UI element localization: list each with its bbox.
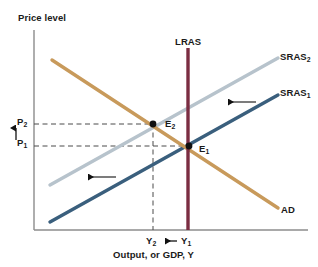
price-level-p2-label: P2 [17, 117, 27, 127]
sras1-label-text: SRAS [280, 87, 307, 98]
ad-curve [52, 60, 278, 208]
curve-group [50, 48, 278, 230]
x-axis-title: Output, or GDP, Y [113, 250, 194, 260]
ad-curve-label: AD [281, 205, 295, 215]
as-ad-chart [0, 0, 318, 267]
equilibrium-e2-label: E2 [165, 119, 175, 129]
y1-label-subscript: 1 [187, 240, 191, 247]
sras2-label-text: SRAS [280, 51, 307, 62]
sras1-curve-label: SRAS1 [280, 88, 311, 98]
sras1-curve [50, 95, 278, 222]
equilibrium-dot-e2 [150, 121, 157, 128]
output-y2-label: Y2 [146, 236, 156, 246]
y2-label-subscript: 2 [152, 240, 156, 247]
equilibrium-e1-label: E1 [199, 144, 209, 154]
e1-label-subscript: 1 [205, 148, 209, 155]
e2-label-subscript: 2 [171, 123, 175, 130]
sras1-label-subscript: 1 [307, 92, 311, 99]
output-y1-label: Y1 [181, 236, 191, 246]
p1-label-subscript: 1 [23, 142, 27, 149]
lras-curve-label: LRAS [175, 37, 201, 47]
sras2-curve [50, 58, 278, 185]
figure-canvas: Price level Output, or GDP, Y LRAS SRAS2… [0, 0, 318, 267]
y-axis-title: Price level [18, 13, 66, 23]
sras2-label-subscript: 2 [307, 56, 311, 63]
equilibrium-dot-e1 [186, 143, 193, 150]
sras2-curve-label: SRAS2 [280, 52, 311, 62]
price-level-p1-label: P1 [17, 138, 27, 148]
p2-label-subscript: 2 [23, 121, 27, 128]
